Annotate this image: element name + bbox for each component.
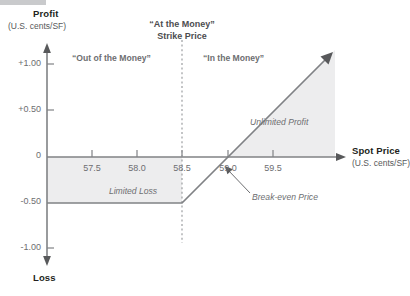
y-axis-title: Profit	[33, 8, 58, 19]
unlimited-profit-label: Unlimited Profit	[250, 117, 308, 127]
x-axis-units: (U.S. cents/SF)	[352, 158, 410, 168]
breakeven-leader-line	[228, 170, 250, 193]
x-axis-title: Spot Price	[352, 145, 400, 156]
breakeven-price-label: Break-even Price	[252, 192, 318, 202]
x-tick-label-2: 58.0	[117, 163, 157, 173]
x-tick-label-1: 57.5	[72, 163, 112, 173]
x-axis-arrow-right	[336, 153, 346, 161]
x-tick-label-4: 59.0	[208, 163, 248, 173]
strike-price-callout-line1: “At the Money”	[122, 18, 242, 30]
x-tick-label-3: 58.5	[162, 163, 202, 173]
y-tick-label-4: -0.50	[5, 196, 41, 206]
y-axis-bottom-title: Loss	[33, 272, 56, 283]
top-left-bar	[0, 0, 46, 5]
y-tick-label-3: 0	[5, 150, 41, 160]
y-axis-arrow-up	[43, 43, 51, 53]
y-axis-units: (U.S. cents/SF)	[8, 21, 66, 31]
zone-label-out-of-the-money: “Out of the Money”	[72, 53, 151, 63]
x-tick-label-5: 59.5	[253, 163, 293, 173]
y-axis-arrow-down	[43, 256, 51, 266]
y-tick-label-5: -1.00	[5, 242, 41, 252]
y-tick-label-1: +1.00	[5, 58, 41, 68]
y-tick-label-2: +0.50	[5, 104, 41, 114]
limited-loss-label: Limited Loss	[83, 186, 183, 196]
zone-label-in-the-money: “In the Money”	[203, 53, 264, 63]
strike-price-callout-line2: Strike Price	[122, 30, 242, 42]
